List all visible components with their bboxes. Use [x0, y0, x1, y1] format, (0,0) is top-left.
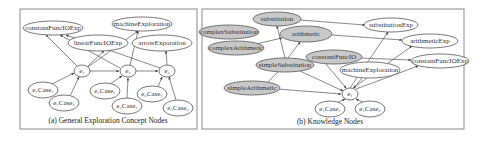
node-label: simpleSubstitution	[259, 61, 312, 69]
node-label: arithmetic	[292, 30, 320, 38]
graph-node-e2case1: e₂Case₁	[90, 83, 120, 99]
node-label: e₁Case₁	[32, 86, 54, 94]
node-label: arrowExporation	[138, 39, 186, 47]
node-label: constantFuncIOExp	[412, 57, 468, 65]
node-label: e₁	[347, 90, 353, 98]
node-label: complexSubstitution	[200, 28, 258, 36]
node-label: constantFuncIO	[312, 53, 357, 61]
graph-node-complexArithmetic: complexArithmetic	[208, 41, 264, 55]
graph-node-constantFuncIOExp: constantFuncIOExp	[23, 21, 83, 35]
node-label: e₁Case₁	[319, 105, 341, 113]
panel-a-caption: (a) General Exploration Concept Nodes	[48, 116, 167, 125]
graph-node-complexSubstitution: complexSubstitution	[199, 25, 259, 39]
graph-node-e1bcase2: e₁Case₂	[355, 101, 385, 117]
node-label: machineExploration	[342, 66, 399, 74]
node-label: substitution	[261, 15, 294, 23]
node-label: e₁Case₂	[53, 99, 75, 107]
node-label: complexArithmetic	[209, 44, 263, 52]
graph-node-arithmeticExp: arithmeticExp	[402, 34, 458, 48]
graph-node-e1bcase1: e₁Case₁	[315, 101, 345, 117]
node-label: e₁Case₂	[359, 105, 381, 113]
graph-node-machineExploration_b: machineExploration	[340, 62, 400, 78]
node-label: e₃Case₂	[167, 104, 189, 112]
graph-node-simpleArithmetic: simpleArithmetic	[224, 81, 280, 95]
graph-node-simpleSubstitution: simpleSubstitution	[256, 58, 314, 72]
node-label: e₃Case₁	[141, 90, 163, 98]
node-label: arithmeticExp	[410, 37, 450, 45]
graph-node-constantFuncIO: constantFuncIO	[306, 50, 362, 64]
node-label: simpleArithmetic	[228, 84, 277, 92]
graph-node-e3case2: e₃Case₂	[163, 100, 193, 116]
node-label: constantFuncIOExp	[25, 24, 81, 32]
panel-b-caption: (b) Knowledge Nodes	[297, 117, 363, 126]
graph-node-substitution: substitution	[253, 12, 301, 26]
graph-node-e1case2: e₁Case₂	[49, 95, 79, 111]
graph-node-e1b: e₁	[342, 88, 358, 100]
graph-node-arithmetic: arithmetic	[280, 26, 332, 42]
graph-node-e2case2: e₂Case₂	[112, 98, 142, 114]
node-label: linearFuncIOExp	[74, 39, 123, 47]
node-label: e₂Case₂	[116, 102, 138, 110]
node-label: e₂	[125, 67, 131, 75]
graph-node-substitutionExp: substitutionExp	[364, 18, 418, 32]
graph-node-e1: e₁	[74, 65, 90, 77]
graph-node-constantFuncIOExp_b: constantFuncIOExp	[411, 54, 469, 68]
node-label: substitutionExp	[369, 21, 413, 29]
node-label: e₁	[79, 67, 85, 75]
graph-node-e3case1: e₃Case₁	[137, 86, 167, 102]
node-label: e₃	[164, 67, 170, 75]
graph-node-arrowExporation: arrowExporation	[132, 35, 192, 51]
graph-node-machineExploration: machineExploration	[112, 17, 172, 31]
graph-node-e1case1: e₁Case₁	[28, 82, 58, 98]
concept-graph-figure: constantFuncIOExpmachineExplorationlinea…	[0, 0, 485, 141]
graph-node-e2: e₂	[120, 65, 136, 77]
node-label: machineExploration	[114, 20, 171, 28]
graph-node-linearFuncIOExp: linearFuncIOExp	[68, 35, 128, 51]
node-label: e₂Case₁	[94, 87, 116, 95]
graph-node-e3: e₃	[159, 65, 175, 77]
